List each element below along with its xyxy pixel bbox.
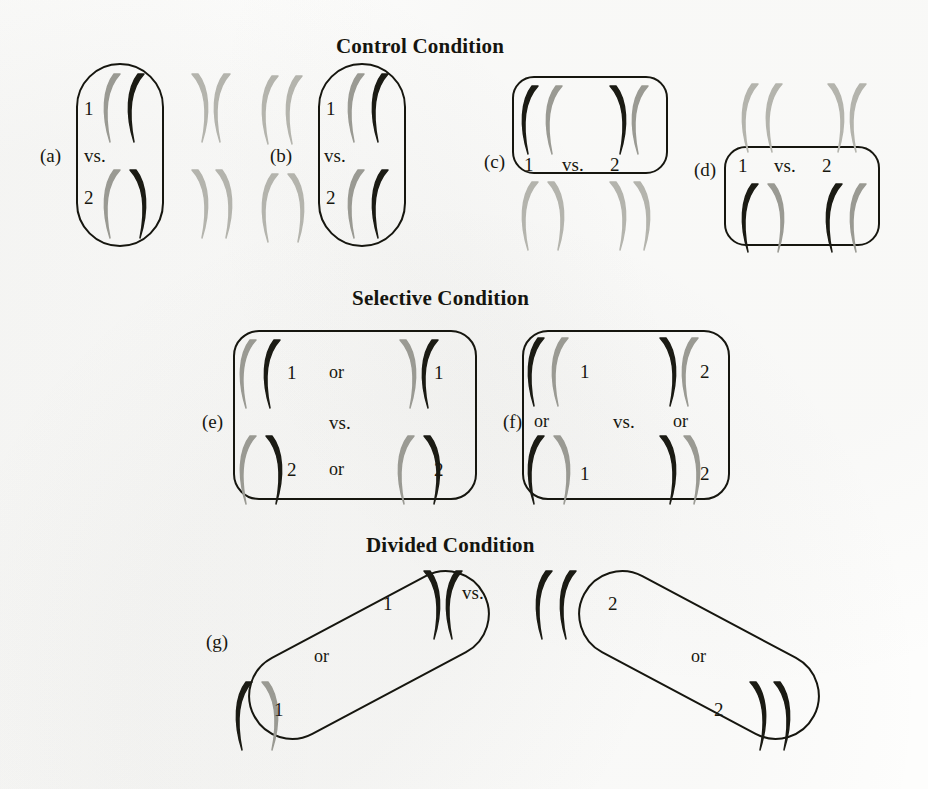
label-or: or	[314, 647, 329, 665]
glyph-group-g-0	[418, 569, 468, 641]
bracket-glyph-right-black	[418, 569, 444, 641]
bracket-glyph-right-black	[768, 680, 794, 752]
label-or: or	[691, 647, 706, 665]
label-vs: vs.	[462, 583, 484, 602]
bracket-glyph-right-black	[744, 680, 770, 752]
bracket-glyph-left-black	[442, 569, 468, 641]
label-digit-2: 2	[714, 700, 724, 719]
label-digit-2: 2	[608, 594, 618, 613]
glyph-group-g-2	[532, 569, 582, 641]
bracket-glyph-left-black	[532, 569, 558, 641]
label-digit-1: 1	[274, 700, 284, 719]
glyph-group-g-3	[744, 680, 794, 752]
attention-conditions-figure: Control ConditionSelective ConditionDivi…	[0, 0, 928, 789]
bracket-glyph-left-black	[232, 680, 258, 752]
panel-tag-g: (g)	[206, 632, 228, 651]
bracket-glyph-left-black	[556, 569, 582, 641]
panel-g: vs.1or12or2(g)	[0, 0, 928, 789]
label-digit-1: 1	[383, 594, 393, 613]
